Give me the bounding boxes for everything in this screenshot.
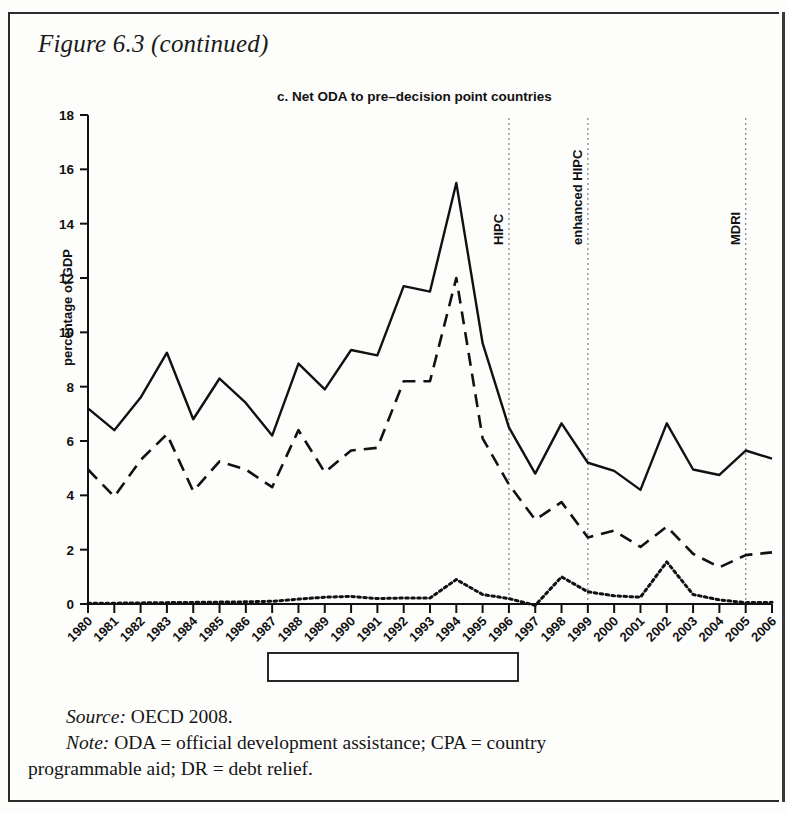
x-tick-label: 1993 (406, 614, 437, 645)
legend-box (268, 653, 518, 681)
x-axis-ticks: 1980198119821983198419851986198719881989… (64, 604, 779, 645)
x-tick-label: 2001 (617, 614, 648, 645)
x-tick-label: 2002 (643, 614, 674, 645)
chart-area: percentage of GDP 024681012141618 198019… (0, 0, 787, 814)
y-axis-ticks: 024681012141618 (59, 108, 88, 612)
x-tick-label: 1990 (327, 614, 358, 645)
event-label: HIPC (491, 213, 506, 245)
x-tick-label: 2005 (722, 614, 753, 645)
source-note: Source: OECD 2008. (66, 704, 233, 730)
y-tick-label: 12 (59, 271, 74, 286)
y-tick-label: 18 (59, 108, 75, 123)
x-tick-label: 1998 (538, 614, 569, 645)
source-text: OECD 2008. (126, 706, 233, 727)
x-tick-label: 1991 (353, 614, 384, 645)
event-label: enhanced HIPC (570, 149, 585, 245)
x-tick-label: 1982 (117, 614, 148, 645)
y-tick-label: 4 (66, 488, 74, 503)
note-text: ODA = official development assistance; C… (109, 732, 546, 753)
note-lead: Note: (66, 732, 109, 753)
x-tick-label: 1983 (143, 614, 174, 645)
x-tick-label: 2006 (748, 614, 779, 645)
x-tick-label: 1981 (90, 614, 121, 645)
x-tick-label: 1999 (564, 614, 595, 645)
x-tick-label: 1992 (380, 614, 411, 645)
line-chart: 024681012141618 198019811982198319841985… (0, 0, 787, 814)
x-tick-label: 1987 (248, 614, 279, 645)
note-line-1: Note: ODA = official development assista… (66, 730, 756, 756)
x-tick-label: 1980 (64, 614, 95, 645)
series-line (88, 183, 772, 490)
x-tick-label: 1984 (169, 613, 201, 645)
y-tick-label: 0 (66, 597, 74, 612)
note-line-2: programmable aid; DR = debt relief. (28, 756, 313, 782)
source-lead: Source: (66, 706, 126, 727)
y-tick-label: 16 (59, 162, 75, 177)
event-lines: HIPCenhanced HIPCMDRI (491, 118, 746, 604)
x-tick-label: 1995 (459, 614, 490, 645)
series-line (88, 278, 772, 567)
y-tick-label: 14 (59, 217, 75, 232)
x-tick-label: 1988 (275, 614, 306, 645)
x-tick-label: 1997 (511, 614, 542, 645)
event-label: MDRI (728, 212, 743, 245)
y-tick-label: 8 (66, 380, 74, 395)
x-tick-label: 1985 (196, 614, 227, 645)
x-tick-label: 2004 (695, 613, 727, 645)
series-line (88, 562, 772, 605)
chart-legend (268, 653, 518, 681)
x-tick-label: 1994 (432, 613, 464, 645)
x-tick-label: 1996 (485, 614, 516, 645)
y-tick-label: 2 (66, 543, 74, 558)
x-tick-label: 2000 (590, 614, 621, 645)
x-tick-label: 1986 (222, 614, 253, 645)
x-tick-label: 1989 (301, 614, 332, 645)
y-tick-label: 6 (66, 434, 74, 449)
y-tick-label: 10 (59, 325, 74, 340)
figure-page: Figure 6.3 (continued) c. Net ODA to pre… (0, 0, 787, 814)
x-tick-label: 2003 (669, 614, 700, 645)
data-series (88, 183, 772, 605)
